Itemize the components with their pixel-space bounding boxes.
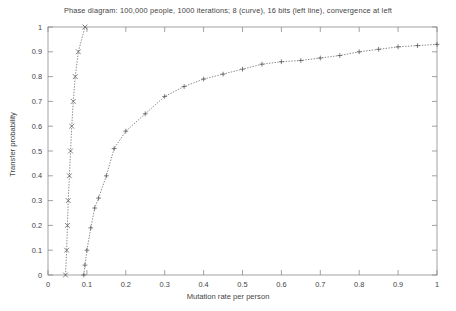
plot-frame [48, 27, 437, 275]
data-point-marker [112, 146, 117, 151]
data-point-marker [123, 129, 128, 134]
data-point-marker [357, 49, 362, 54]
data-point-marker [435, 42, 440, 47]
data-point-marker [221, 72, 226, 77]
data-point-marker [162, 94, 167, 99]
plot-canvas [0, 0, 456, 311]
data-point-marker [92, 206, 97, 211]
plot-series [63, 25, 439, 278]
data-point-marker [201, 77, 206, 82]
series-2 [81, 42, 439, 277]
data-point-marker [88, 225, 93, 230]
data-point-marker [337, 53, 342, 58]
chart-figure: Phase diagram: 100,000 people, 1000 iter… [0, 0, 456, 311]
data-point-marker [182, 84, 187, 89]
data-point-marker [96, 196, 101, 201]
data-point-marker [69, 124, 74, 129]
data-point-marker [83, 263, 88, 268]
plot-border [48, 27, 437, 275]
data-point-marker [260, 62, 265, 67]
data-point-marker [240, 67, 245, 72]
series-line [84, 44, 437, 275]
data-point-marker [279, 59, 284, 64]
data-point-marker [104, 173, 109, 178]
data-point-marker [396, 44, 401, 49]
data-point-marker [318, 56, 323, 61]
data-point-marker [68, 149, 73, 154]
data-point-marker [85, 248, 90, 253]
data-point-marker [415, 43, 420, 48]
data-point-marker [298, 58, 303, 63]
plot-ticks [48, 27, 437, 275]
series-1 [63, 25, 87, 278]
data-point-marker [81, 273, 86, 278]
series-line [66, 27, 85, 275]
data-point-marker [376, 47, 381, 52]
